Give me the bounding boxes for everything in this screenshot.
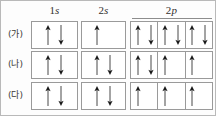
spin-down-arrow-icon — [106, 85, 115, 107]
orbital-cell-2p-2-row2 — [158, 52, 185, 78]
orbital-cell-2p-2-row1 — [158, 22, 185, 48]
electron-slot-pair — [158, 52, 184, 78]
orbital-box-2p-row1 — [130, 21, 213, 49]
electron-slot — [199, 22, 212, 48]
electron-slot-pair — [32, 22, 77, 48]
electron-slot-pair — [32, 83, 77, 109]
orbital-cell-2p-1-row2 — [131, 52, 158, 78]
column-header-2p: 2p — [130, 3, 213, 17]
electron-slot — [144, 83, 157, 109]
spin-down-arrow-icon — [57, 24, 66, 46]
electron-slot — [42, 83, 55, 109]
electron-slot — [104, 83, 117, 109]
electron-slot — [186, 22, 199, 48]
column-header-1s-l: s — [55, 4, 59, 16]
electron-slot — [171, 83, 184, 109]
electron-slot — [171, 22, 184, 48]
electron-slot-pair — [186, 22, 212, 48]
spin-up-arrow-icon — [188, 85, 197, 107]
electron-slot-pair — [82, 83, 125, 109]
row-label-1: (가) — [2, 29, 29, 39]
electron-slot — [104, 52, 117, 78]
electron-slot-pair — [32, 52, 77, 78]
electron-slot-pair — [131, 22, 157, 48]
electron-slot — [131, 52, 144, 78]
electron-slot — [158, 22, 171, 48]
spin-up-arrow-icon — [133, 24, 142, 46]
spin-down-arrow-icon — [201, 24, 210, 46]
column-header-1s: 1s — [31, 3, 78, 17]
spin-up-arrow-icon — [133, 54, 142, 76]
spin-up-arrow-icon — [160, 54, 169, 76]
spin-up-arrow-icon — [93, 24, 102, 46]
spin-up-arrow-icon — [44, 85, 53, 107]
electron-slot — [42, 52, 55, 78]
orbital-cell-2p-3-row3 — [186, 83, 212, 109]
orbital-cell-2p-1-row3 — [131, 83, 158, 109]
spin-up-arrow-icon — [160, 85, 169, 107]
orbital-cell-2p-3-row1 — [186, 22, 212, 48]
electron-slot — [144, 52, 157, 78]
row-label-2: (나) — [2, 59, 29, 69]
electron-slot-pair — [186, 52, 212, 78]
electron-slot — [186, 52, 199, 78]
spin-down-arrow-icon — [106, 54, 115, 76]
electron-slot-pair — [158, 83, 184, 109]
orbital-box-1s-row3 — [31, 82, 78, 110]
spin-down-arrow-icon — [173, 24, 182, 46]
orbital-cell-2p-2-row3 — [158, 83, 185, 109]
electron-slot-pair — [131, 52, 157, 78]
electron-slot-pair — [82, 52, 125, 78]
electron-slot — [144, 22, 157, 48]
orbital-box-2p-row2 — [130, 51, 213, 79]
spin-up-arrow-icon — [133, 85, 142, 107]
electron-slot — [131, 22, 144, 48]
orbital-cell-2p-1-row1 — [131, 22, 158, 48]
orbital-cell-2p-3-row2 — [186, 52, 212, 78]
column-header-2s: 2s — [81, 3, 126, 17]
electron-slot — [131, 83, 144, 109]
spin-down-arrow-icon — [57, 85, 66, 107]
spin-down-arrow-icon — [146, 24, 155, 46]
electron-slot — [91, 22, 104, 48]
electron-slot — [171, 52, 184, 78]
electron-slot-pair — [131, 83, 157, 109]
spin-down-arrow-icon — [57, 54, 66, 76]
electron-slot — [199, 52, 212, 78]
electron-slot — [158, 83, 171, 109]
spin-down-arrow-icon — [146, 54, 155, 76]
electron-slot — [199, 83, 212, 109]
electron-slot-pair — [158, 22, 184, 48]
spin-up-arrow-icon — [188, 24, 197, 46]
row-label-3: (다) — [2, 90, 29, 100]
electron-slot — [55, 52, 68, 78]
electron-slot — [42, 22, 55, 48]
orbital-box-1s-row1 — [31, 21, 78, 49]
orbital-box-2p-row3 — [130, 82, 213, 110]
spin-up-arrow-icon — [93, 54, 102, 76]
electron-slot-pair — [186, 83, 212, 109]
electron-slot — [186, 83, 199, 109]
header-rule-2p — [132, 18, 212, 19]
orbital-box-2s-row3 — [81, 82, 126, 110]
orbital-diagram-figure: 1s 2s 2p (가)(나)(다) — [0, 0, 216, 116]
spin-up-arrow-icon — [188, 54, 197, 76]
electron-slot — [55, 22, 68, 48]
spin-up-arrow-icon — [44, 54, 53, 76]
orbital-box-2s-row2 — [81, 51, 126, 79]
electron-slot — [104, 22, 117, 48]
spin-up-arrow-icon — [160, 24, 169, 46]
column-header-2s-l: s — [104, 4, 108, 16]
spin-up-arrow-icon — [44, 24, 53, 46]
electron-slot — [91, 83, 104, 109]
orbital-box-1s-row2 — [31, 51, 78, 79]
orbital-box-2s-row1 — [81, 21, 126, 49]
electron-slot — [91, 52, 104, 78]
spin-up-arrow-icon — [93, 85, 102, 107]
electron-slot-pair — [82, 22, 125, 48]
column-header-2p-l: p — [172, 4, 178, 16]
electron-slot — [158, 52, 171, 78]
electron-slot — [55, 83, 68, 109]
